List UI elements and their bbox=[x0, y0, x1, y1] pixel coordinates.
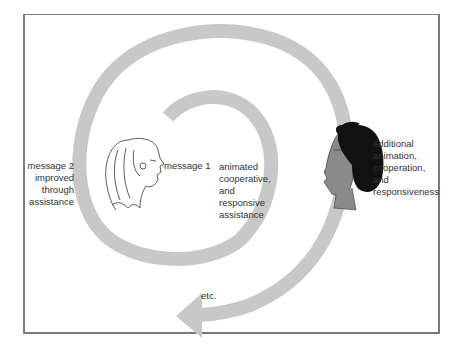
label-line: and bbox=[219, 185, 271, 197]
label-line: message 1 bbox=[164, 160, 210, 172]
label-line: improved bbox=[24, 172, 74, 184]
label-line: animation, bbox=[373, 150, 439, 162]
label-line: cooperation, bbox=[373, 162, 439, 174]
label-message-2: message 2 improved through assistance bbox=[24, 160, 74, 208]
woman-face-icon bbox=[106, 138, 164, 210]
label-line: animated bbox=[219, 161, 271, 173]
label-line: through bbox=[24, 184, 74, 196]
label-line: responsiveness bbox=[373, 186, 439, 198]
spiral-arrow-path bbox=[79, 31, 346, 315]
arrow-head-icon bbox=[176, 293, 202, 338]
label-additional: additional animation, cooperation, and r… bbox=[373, 138, 439, 198]
label-line: assistance bbox=[219, 209, 271, 221]
label-line: cooperative, bbox=[219, 173, 271, 185]
label-line: assistance bbox=[24, 196, 74, 208]
label-line: message 2 bbox=[24, 160, 74, 172]
label-line: responsive bbox=[219, 197, 271, 209]
label-line: and bbox=[373, 174, 439, 186]
label-etc: etc. bbox=[201, 290, 216, 302]
label-message-1: message 1 bbox=[164, 160, 210, 172]
label-line: additional bbox=[373, 138, 439, 150]
label-animated-assistance: animated cooperative, and responsive ass… bbox=[219, 161, 271, 221]
